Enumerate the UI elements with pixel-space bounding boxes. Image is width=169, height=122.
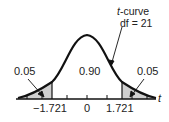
df-label: df = 21 [120,18,152,29]
center-area-label: 0.90 [79,66,100,77]
right-area-label: 0.05 [137,66,158,77]
curve-title-suffix: -curve [120,5,149,17]
tick-label-center: 0 [84,103,90,114]
left-area-label: 0.05 [14,66,35,77]
tick-label-left: −1.721 [33,103,67,114]
tick-label-right: 1.721 [106,103,134,114]
x-axis-label: t [158,93,161,104]
curve-label-pointer [112,27,122,62]
curve-title: t-curve [117,6,149,17]
